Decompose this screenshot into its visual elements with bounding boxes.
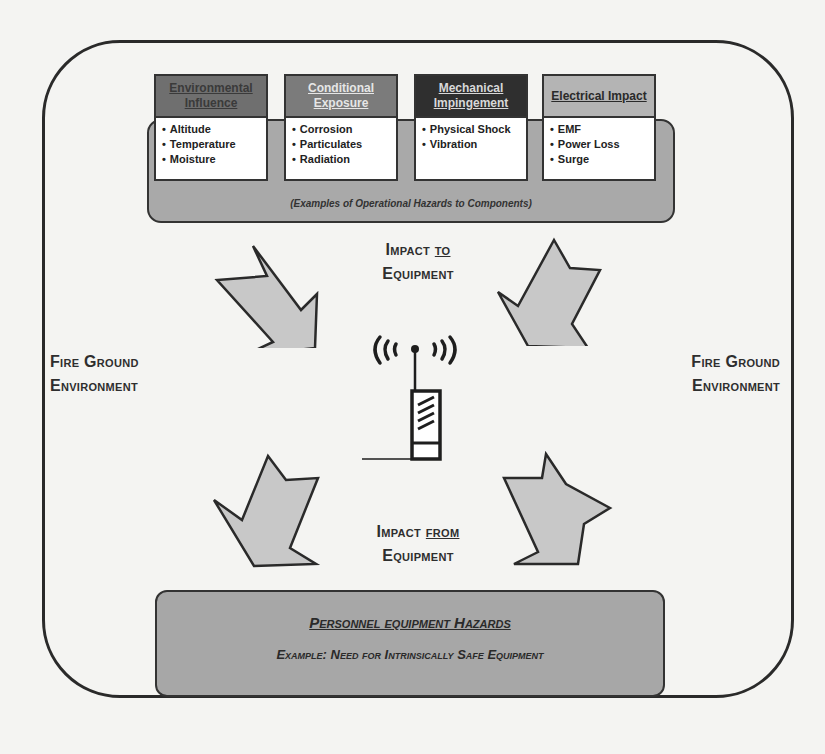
category-title: Mechanical Impingement xyxy=(416,76,526,118)
arrow-bottom-right-icon xyxy=(498,450,618,570)
env-left-line1: Fire Ground xyxy=(50,350,139,374)
arrow-bottom-left-icon xyxy=(210,452,330,572)
impact-from-prefix: Impact xyxy=(377,523,426,540)
category-item: Power Loss xyxy=(550,137,648,152)
impact-to-emphasis: to xyxy=(435,241,451,258)
category-conditional-exposure: Conditional Exposure Corrosion Particula… xyxy=(284,74,398,181)
category-mechanical-impingement: Mechanical Impingement Physical Shock Vi… xyxy=(414,74,528,181)
category-item: Surge xyxy=(550,152,648,167)
category-item: Temperature xyxy=(162,137,260,152)
category-title: Environmental Influence xyxy=(156,76,266,118)
category-item: EMF xyxy=(550,122,648,137)
impact-to-line2: Equipment xyxy=(338,262,498,286)
category-electrical-impact: Electrical Impact EMF Power Loss Surge xyxy=(542,74,656,181)
fire-ground-environment-left: Fire Ground Environment xyxy=(50,350,139,398)
fire-ground-environment-right: Fire Ground Environment xyxy=(630,350,780,398)
category-environmental-influence: Environmental Influence Altitude Tempera… xyxy=(154,74,268,181)
category-item: Moisture xyxy=(162,152,260,167)
impact-from-equipment-label: Impact from Equipment xyxy=(338,520,498,568)
env-right-line1: Fire Ground xyxy=(630,350,780,374)
radio-transmitter-icon xyxy=(360,325,470,475)
personnel-equipment-hazards-box: Personnel equipment Hazards Example: Nee… xyxy=(155,590,665,697)
impact-to-equipment-label: Impact to Equipment xyxy=(338,238,498,286)
personnel-hazards-example: Example: Need for Intrinsically Safe Equ… xyxy=(157,647,663,662)
impact-from-line2: Equipment xyxy=(338,544,498,568)
category-item: Altitude xyxy=(162,122,260,137)
env-left-line2: Environment xyxy=(50,374,139,398)
category-title: Conditional Exposure xyxy=(286,76,396,118)
category-item: Vibration xyxy=(422,137,520,152)
category-title: Electrical Impact xyxy=(544,76,654,118)
category-item: Radiation xyxy=(292,152,390,167)
impact-from-emphasis: from xyxy=(426,523,460,540)
arrow-top-left-icon xyxy=(205,238,325,348)
personnel-hazards-title: Personnel equipment Hazards xyxy=(157,614,663,631)
operational-hazards-caption: (Examples of Operational Hazards to Comp… xyxy=(147,198,675,209)
impact-to-prefix: Impact xyxy=(386,241,435,258)
env-right-line2: Environment xyxy=(630,374,780,398)
category-item: Corrosion xyxy=(292,122,390,137)
category-item: Physical Shock xyxy=(422,122,520,137)
arrow-top-right-icon xyxy=(488,236,608,346)
category-item: Particulates xyxy=(292,137,390,152)
